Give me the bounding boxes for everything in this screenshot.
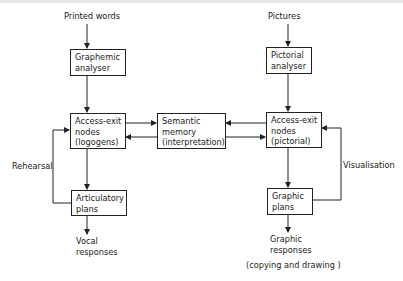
input-printed-words: Printed words: [64, 11, 120, 22]
visualisation-label: Visualisation: [343, 160, 395, 171]
graphic-responses-label: Graphic responses: [270, 234, 311, 255]
rehearsal-label: Rehearsal: [12, 161, 53, 172]
input-pictures: Pictures: [268, 11, 300, 22]
pictorial-analyser-box: Pictorial analyser: [266, 47, 312, 74]
vocal-responses-label: Vocal responses: [76, 236, 117, 257]
access-exit-pictorial-box: Access-exit nodes (pictorial): [266, 112, 322, 148]
articulatory-plans-box: Articulatory plans: [71, 190, 127, 216]
graphic-plans-box: Graphic plans: [267, 188, 313, 215]
rehearsal-loop: [53, 130, 71, 203]
graphemic-analyser-box: Graphemic analyser: [70, 49, 126, 76]
access-exit-logogens-box: Access-exit nodes (logogens): [70, 113, 126, 149]
semantic-memory-box: Semantic memory (interpretation): [157, 113, 226, 149]
copying-drawing-note: (copying and drawing ): [246, 260, 341, 271]
